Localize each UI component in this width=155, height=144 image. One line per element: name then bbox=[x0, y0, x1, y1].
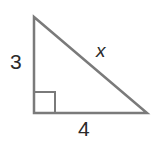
vertical-leg-label: 3 bbox=[10, 50, 22, 74]
triangle-diagram: 3 4 x bbox=[0, 0, 155, 144]
right-angle-marker bbox=[34, 92, 55, 113]
horizontal-leg-label: 4 bbox=[78, 117, 90, 141]
triangle-shape bbox=[34, 17, 147, 113]
hypotenuse-label: x bbox=[96, 40, 106, 62]
